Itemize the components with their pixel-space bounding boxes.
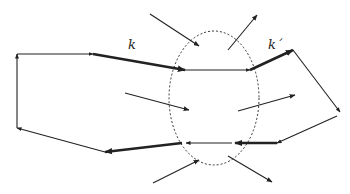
edge-label-k: k xyxy=(128,38,136,51)
cycle-edge-e5 xyxy=(250,50,293,70)
crossing-arrow-c3 xyxy=(125,93,189,110)
cycle-edge-e7 xyxy=(277,116,337,143)
crossing-arrow-c6 xyxy=(228,156,272,182)
cycle-edge-e10 xyxy=(105,143,182,152)
crossing-arrow-c2 xyxy=(228,15,257,50)
crossing-arrow-c4 xyxy=(238,95,295,111)
edge-label-k-prime: k´ xyxy=(268,38,282,51)
cycle-edge-e6 xyxy=(293,50,340,112)
cycle-edges xyxy=(17,50,340,152)
cycle-edge-e11 xyxy=(17,128,105,152)
crossing-arrow-c1 xyxy=(150,14,199,46)
cut-region-ellipse xyxy=(169,31,259,165)
cycle-edge-e3 xyxy=(93,54,185,70)
network-diagram xyxy=(0,0,350,194)
crossing-arrow-c5 xyxy=(153,160,199,183)
